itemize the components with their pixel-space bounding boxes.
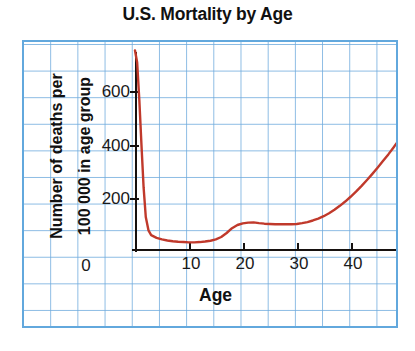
page-title: U.S. Mortality by Age bbox=[0, 4, 415, 25]
x-axis-title: Age bbox=[199, 285, 232, 306]
graph-paper-panel: 600 400 200 0 10 20 30 40 Age Number of … bbox=[22, 40, 398, 328]
chart-page: U.S. Mortality by Age 600 400 200 0 10 2… bbox=[0, 0, 415, 351]
y-axis-title-line1: Number of deaths per bbox=[48, 40, 66, 281]
plot-area: 600 400 200 0 10 20 30 40 Age Number of … bbox=[24, 42, 396, 326]
y-axis-title-line2: 100 000 in age group bbox=[76, 40, 94, 281]
